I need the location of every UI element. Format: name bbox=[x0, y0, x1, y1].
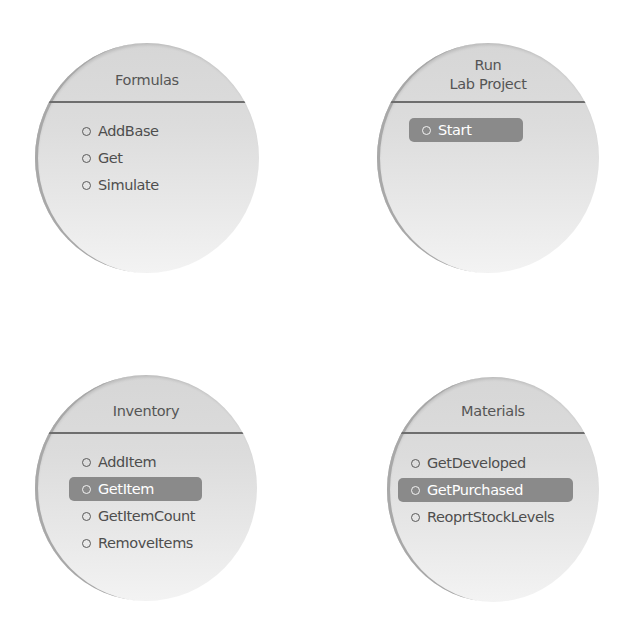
operation-list: GetDeveloped GetPurchased ReoprtStockLev… bbox=[398, 451, 573, 532]
list-item-start[interactable]: Start bbox=[409, 118, 523, 142]
item-label: GetItem bbox=[98, 481, 154, 497]
inventory-panel: Inventory AddItem GetItem GetItemCount R… bbox=[35, 375, 257, 601]
radio-bullet-icon bbox=[82, 181, 91, 190]
list-item-addbase[interactable]: AddBase bbox=[69, 119, 219, 143]
radio-bullet-icon bbox=[82, 127, 91, 136]
list-item-removeitems[interactable]: RemoveItems bbox=[69, 531, 202, 555]
panel-title-line-2: Lab Project bbox=[449, 75, 526, 94]
item-label: Start bbox=[438, 122, 471, 138]
item-label: Get bbox=[98, 150, 123, 166]
list-item-getitemcount[interactable]: GetItemCount bbox=[69, 504, 202, 528]
item-label: GetDeveloped bbox=[427, 455, 526, 471]
list-item-getitem[interactable]: GetItem bbox=[69, 477, 202, 501]
list-item-additem[interactable]: AddItem bbox=[69, 450, 202, 474]
list-item-reportstocklevels[interactable]: ReoprtStockLevels bbox=[398, 505, 573, 529]
radio-bullet-icon bbox=[82, 458, 91, 467]
panel-title: Formulas bbox=[115, 71, 179, 90]
item-label: AddBase bbox=[98, 123, 159, 139]
formulas-panel: Formulas AddBase Get Simulate bbox=[35, 43, 259, 273]
panel-title: Materials bbox=[461, 402, 525, 421]
item-label: ReoprtStockLevels bbox=[427, 509, 554, 525]
materials-panel: Materials GetDeveloped GetPurchased Reop… bbox=[387, 377, 599, 602]
radio-bullet-icon bbox=[411, 459, 420, 468]
panel-title: Inventory bbox=[113, 402, 180, 421]
radio-bullet-icon bbox=[411, 486, 420, 495]
operation-list: AddItem GetItem GetItemCount RemoveItems bbox=[69, 450, 202, 558]
panel-header: Formulas bbox=[35, 43, 259, 103]
panel-header: Run Lab Project bbox=[377, 43, 599, 103]
item-label: GetItemCount bbox=[98, 508, 195, 524]
radio-bullet-icon bbox=[82, 539, 91, 548]
item-label: Simulate bbox=[98, 177, 159, 193]
radio-bullet-icon bbox=[82, 512, 91, 521]
list-item-getdeveloped[interactable]: GetDeveloped bbox=[398, 451, 573, 475]
item-label: RemoveItems bbox=[98, 535, 193, 551]
radio-bullet-icon bbox=[422, 126, 431, 135]
list-item-get[interactable]: Get bbox=[69, 146, 219, 170]
radio-bullet-icon bbox=[411, 513, 420, 522]
item-label: GetPurchased bbox=[427, 482, 523, 498]
radio-bullet-icon bbox=[82, 154, 91, 163]
operation-list: AddBase Get Simulate bbox=[69, 119, 219, 200]
item-label: AddItem bbox=[98, 454, 156, 470]
panel-header: Inventory bbox=[35, 375, 257, 434]
panel-header: Materials bbox=[387, 377, 599, 434]
panel-title-line-1: Run bbox=[475, 56, 502, 75]
list-item-getpurchased[interactable]: GetPurchased bbox=[398, 478, 573, 502]
operation-list: Start bbox=[409, 118, 523, 145]
run-lab-project-panel: Run Lab Project Start bbox=[377, 43, 599, 273]
radio-bullet-icon bbox=[82, 485, 91, 494]
list-item-simulate[interactable]: Simulate bbox=[69, 173, 219, 197]
